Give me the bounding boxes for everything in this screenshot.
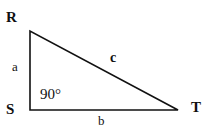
vertex-label-R: R [6, 9, 17, 25]
vertex-label-T: T [191, 99, 201, 115]
side-label-b: b [98, 113, 105, 128]
side-label-a: a [12, 59, 18, 74]
right-angle-label: 90° [40, 86, 61, 102]
side-label-c: c [110, 50, 116, 65]
triangle-diagram: R S T a b c 90° [0, 0, 212, 130]
vertex-label-S: S [6, 101, 14, 117]
